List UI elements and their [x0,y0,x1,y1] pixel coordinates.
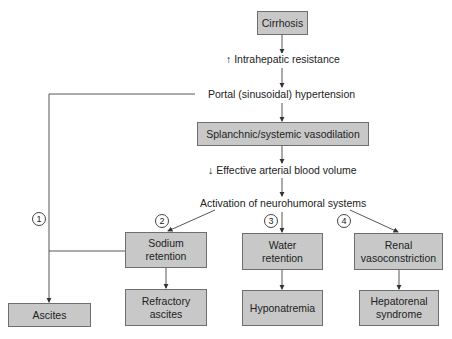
node-ascites-text: Ascites [33,309,67,322]
node-hepatorenal-line2: syndrome [376,308,422,321]
node-water-line2: retention [262,252,303,265]
node-splanchnic-vasodilation: Splanchnic/systemic vasodilation [197,122,369,146]
node-sodium-line2: retention [146,250,187,263]
node-hepatorenal-syndrome: Hepatorenal syndrome [359,290,439,326]
node-water-retention: Water retention [242,233,323,270]
cirrhosis-flowchart: Cirrhosis ↑ Intrahepatic resistance Port… [0,0,452,339]
node-refractory-line1: Refractory [142,295,190,308]
node-splanchnic-text: Splanchnic/systemic vasodilation [206,128,360,141]
node-renal-vasoconstriction: Renal vasoconstriction [354,233,443,270]
node-hyponatremia-text: Hyponatremia [250,302,315,315]
marker-1: 1 [32,212,46,226]
node-renal-line1: Renal [385,239,412,252]
node-sodium-retention: Sodium retention [125,232,207,268]
marker-2: 2 [155,214,169,228]
node-refractory-line2: ascites [150,308,183,321]
node-effective-blood-volume: ↓ Effective arterial blood volume [206,164,359,176]
node-cirrhosis: Cirrhosis [257,11,308,35]
node-neurohumoral-activation: Activation of neurohumoral systems [198,197,368,209]
node-cirrhosis-text: Cirrhosis [262,17,303,30]
marker-3: 3 [264,214,278,228]
node-sodium-line1: Sodium [148,237,184,250]
marker-4: 4 [337,214,351,228]
node-hyponatremia: Hyponatremia [242,290,323,326]
node-renal-line2: vasoconstriction [361,252,436,265]
node-refractory-ascites: Refractory ascites [125,289,207,326]
node-water-line1: Water [269,239,297,252]
node-portal-hypertension: Portal (sinusoidal) hypertension [206,88,357,100]
node-intrahepatic-resistance: ↑ Intrahepatic resistance [224,53,342,65]
node-ascites: Ascites [8,303,91,327]
node-hepatorenal-line1: Hepatorenal [370,295,427,308]
